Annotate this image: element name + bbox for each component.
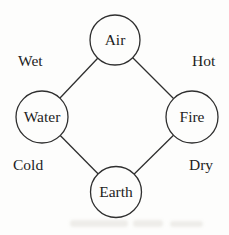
four-elements-diagram: Air Water Fire Earth Wet Hot Cold Dry bbox=[0, 0, 229, 235]
scanned-page: Air Water Fire Earth Wet Hot Cold Dry bbox=[0, 0, 229, 235]
node-label-air: Air bbox=[105, 31, 127, 48]
node-label-water: Water bbox=[24, 108, 61, 125]
scan-bleed-artifact bbox=[70, 220, 203, 227]
quality-label-dry: Dry bbox=[189, 156, 213, 173]
quality-label-hot: Hot bbox=[192, 52, 216, 69]
quality-label-wet: Wet bbox=[18, 52, 43, 69]
node-label-earth: Earth bbox=[99, 183, 133, 200]
node-label-fire: Fire bbox=[180, 108, 205, 125]
quality-label-cold: Cold bbox=[13, 156, 43, 173]
